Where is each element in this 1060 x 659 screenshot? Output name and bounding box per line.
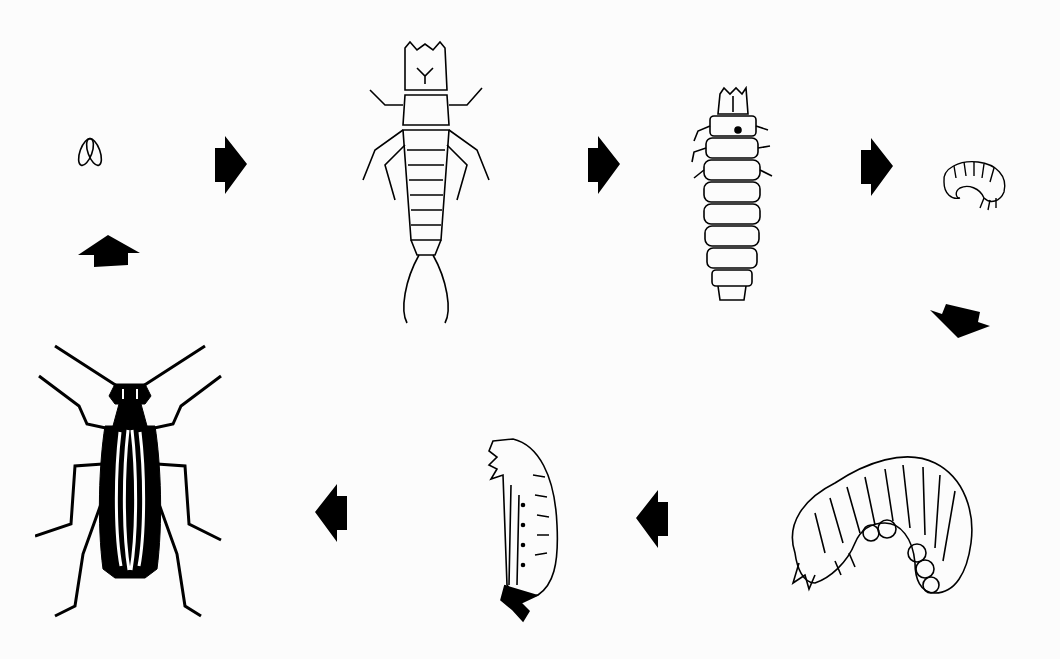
- eggs-icon: [70, 132, 110, 172]
- arrow-right-icon: [861, 138, 893, 196]
- stage-eggs: eggs: [70, 132, 110, 172]
- stage-pupa: pupa: [483, 435, 563, 625]
- stage-larva-second: second stage larva: [690, 86, 775, 306]
- arrow-up-icon: [78, 235, 140, 267]
- arrow-right-icon: [588, 136, 620, 194]
- stage-larva-curled: curled larva: [938, 158, 1010, 213]
- triungulin-icon: [355, 40, 495, 325]
- arrow-down-icon: [930, 304, 992, 338]
- stage-triungulin: triungulin (first instar larva): [355, 40, 495, 325]
- grub-icon: [775, 443, 985, 603]
- larva-curled-icon: [938, 158, 1010, 213]
- adult-beetle-icon: [35, 344, 225, 624]
- larva-second-icon: [690, 86, 775, 306]
- arrow-left-icon: [315, 484, 347, 542]
- pupa-icon: [483, 435, 563, 625]
- stage-adult: adult beetle: [35, 344, 225, 624]
- arrow-right-icon: [215, 136, 247, 194]
- stage-grub: grub larva: [775, 443, 985, 603]
- arrow-left-icon: [636, 490, 668, 548]
